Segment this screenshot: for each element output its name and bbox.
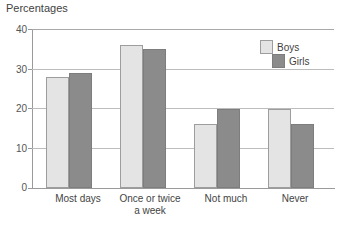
x-category-label-once-or-twice-a-week: Once or twice a week	[108, 193, 192, 217]
y-tick-label-0: 0	[4, 183, 27, 193]
y-tick-label-40: 40	[4, 25, 27, 35]
gridline-30	[32, 69, 334, 70]
bar-girls-not-much	[217, 109, 240, 189]
y-tick-label-30: 30	[4, 65, 27, 75]
legend-label-boys: Boys	[277, 42, 299, 53]
x-axis-line	[32, 188, 335, 189]
tick-30	[28, 69, 32, 70]
bar-girls-most-days	[69, 73, 92, 188]
legend-item-boys: Boys	[260, 40, 299, 54]
bar-boys-most-days	[46, 77, 69, 188]
bar-boys-once-or-twice-a-week	[120, 45, 143, 188]
tick-20	[28, 108, 32, 109]
percentages-bar-chart: Percentages 40 30 20 10 0	[0, 0, 342, 231]
tick-40	[28, 29, 32, 30]
bar-boys-never	[268, 109, 291, 189]
bar-boys-not-much	[194, 124, 217, 188]
plot-area: Boys Girls	[32, 29, 334, 188]
legend-label-girls: Girls	[289, 56, 310, 67]
y-tick-label-20: 20	[4, 104, 27, 114]
legend: Boys Girls	[260, 40, 332, 68]
legend-item-girls: Girls	[272, 54, 310, 68]
gridline-40	[32, 29, 334, 30]
y-tick-label-10: 10	[4, 144, 27, 154]
bar-girls-once-or-twice-a-week	[143, 49, 166, 188]
x-category-label-never: Never	[260, 193, 330, 205]
x-category-label-not-much: Not much	[186, 193, 266, 205]
tick-10	[28, 148, 32, 149]
x-category-label-most-days: Most days	[38, 193, 118, 205]
legend-swatch-girls-icon	[272, 54, 285, 68]
tick-0	[28, 188, 32, 189]
legend-swatch-boys-icon	[260, 40, 273, 54]
bar-girls-never	[291, 124, 314, 188]
